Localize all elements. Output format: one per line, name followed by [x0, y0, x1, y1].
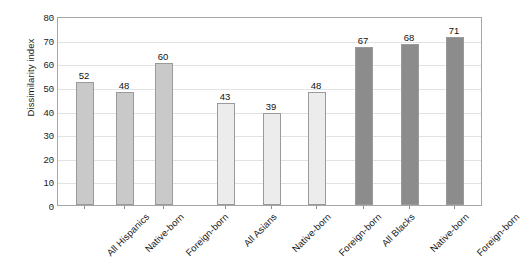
y-tick-label: 10 — [10, 177, 54, 188]
bar-value-label: 67 — [358, 35, 369, 46]
x-category-label: Foreign-born — [474, 211, 521, 258]
bar — [116, 92, 134, 205]
y-tick-mark — [51, 64, 54, 65]
x-tick-mark — [163, 206, 164, 209]
y-tick-mark — [51, 182, 54, 183]
x-category-label: Native-born — [428, 211, 471, 254]
bar-value-label: 71 — [449, 25, 460, 36]
bar — [355, 47, 373, 205]
y-tick-label: 50 — [10, 82, 54, 93]
y-tick-label: 30 — [10, 130, 54, 141]
x-tick-mark — [271, 206, 272, 209]
bar — [401, 44, 419, 205]
y-tick-label: 80 — [10, 12, 54, 23]
y-tick-label: 60 — [10, 59, 54, 70]
bar-value-label: 48 — [311, 80, 322, 91]
x-category-label: Foreign-born — [183, 211, 230, 258]
bar-value-label: 60 — [158, 51, 169, 62]
bar-value-label: 68 — [404, 32, 415, 43]
x-tick-mark — [454, 206, 455, 209]
bar-value-label: 43 — [220, 91, 231, 102]
bar — [155, 63, 173, 205]
y-tick-label: 70 — [10, 35, 54, 46]
x-category-label: All Hispanics — [104, 211, 151, 258]
bar — [217, 103, 235, 205]
x-tick-mark — [84, 206, 85, 209]
x-tick-mark — [124, 206, 125, 209]
y-tick-mark — [51, 135, 54, 136]
y-tick-mark — [51, 41, 54, 42]
x-tick-mark — [363, 206, 364, 209]
y-tick-label: 40 — [10, 106, 54, 117]
bar — [263, 113, 281, 205]
y-tick-mark — [51, 159, 54, 160]
y-tick-mark — [51, 17, 54, 18]
x-category-label: All Blacks — [379, 211, 417, 249]
bar — [446, 37, 464, 205]
x-tick-mark — [225, 206, 226, 209]
y-tick-mark — [51, 112, 54, 113]
gridline — [58, 42, 481, 43]
x-tick-mark — [316, 206, 317, 209]
y-tick-label: 20 — [10, 153, 54, 164]
bar — [76, 82, 94, 205]
bar — [308, 92, 326, 205]
bar-value-label: 39 — [266, 101, 277, 112]
y-tick-mark — [51, 88, 54, 89]
bar-value-label: 48 — [119, 80, 130, 91]
x-category-label: Native-born — [290, 211, 333, 254]
y-tick-label: 0 — [10, 201, 54, 212]
bar-value-label: 52 — [79, 70, 90, 81]
y-axis: 01020304050607080 — [0, 17, 54, 206]
y-tick-mark — [51, 206, 54, 207]
x-category-label: All Asians — [241, 211, 279, 249]
x-tick-mark — [409, 206, 410, 209]
x-category-label: Foreign-born — [336, 211, 383, 258]
